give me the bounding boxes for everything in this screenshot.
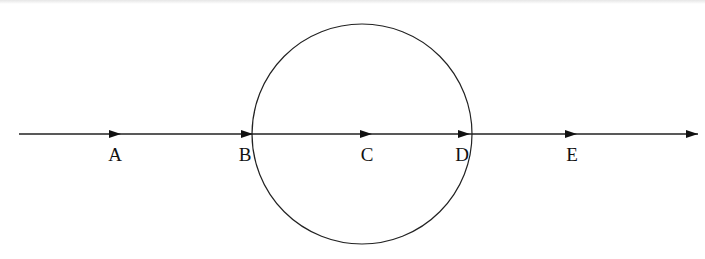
point-label-b: B bbox=[239, 144, 252, 165]
point-label-c: C bbox=[361, 144, 374, 165]
arrow-marker-d bbox=[458, 130, 470, 138]
diagram-svg: ABCDE bbox=[0, 0, 705, 259]
point-label-a: A bbox=[108, 144, 122, 165]
point-labels: ABCDE bbox=[108, 144, 578, 165]
arrow-marker-a bbox=[109, 130, 121, 138]
diagram-canvas: ABCDE bbox=[0, 0, 705, 259]
arrow-marker-c bbox=[360, 130, 372, 138]
point-label-e: E bbox=[566, 144, 578, 165]
arrow-marker-b bbox=[241, 130, 253, 138]
arrow-marker-e bbox=[565, 130, 577, 138]
point-label-d: D bbox=[455, 144, 469, 165]
